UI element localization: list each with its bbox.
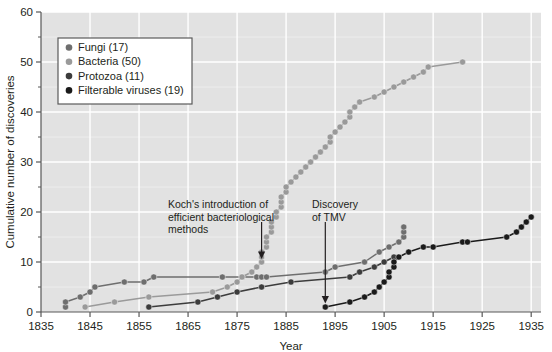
- series-point: [62, 299, 68, 305]
- series-point: [401, 224, 407, 230]
- series-point: [464, 239, 470, 245]
- series-point: [239, 274, 245, 280]
- legend: Fungi (17)Bacteria (50)Protozoa (11)Filt…: [58, 38, 192, 104]
- series-point: [322, 144, 328, 150]
- series-point: [381, 89, 387, 95]
- series-point: [332, 264, 338, 270]
- series-point: [219, 274, 225, 280]
- series-point: [283, 184, 289, 190]
- series-point: [430, 244, 436, 250]
- series-point: [146, 294, 152, 300]
- series-point: [396, 254, 402, 260]
- series-point: [278, 194, 284, 200]
- y-axis-title: Cumulative number of discoveries: [4, 75, 16, 248]
- legend-label: Protozoa (11): [78, 70, 144, 82]
- series-point: [518, 224, 524, 230]
- series-point: [322, 304, 328, 310]
- series-point: [82, 304, 88, 310]
- legend-marker-icon: [66, 44, 73, 51]
- legend-label: Filterable viruses (19): [78, 84, 184, 96]
- y-tick-label: 30: [20, 156, 33, 168]
- series-point: [347, 274, 353, 280]
- series-point: [209, 289, 215, 295]
- series-point: [386, 244, 392, 250]
- series-point: [391, 259, 397, 265]
- annotation-text-line: of TMV: [312, 211, 346, 223]
- series-point: [258, 284, 264, 290]
- legend-marker-icon: [66, 59, 73, 66]
- x-tick-label: 1835: [28, 320, 54, 332]
- series-point: [406, 249, 412, 255]
- series-point: [352, 104, 358, 110]
- legend-marker-icon: [66, 87, 73, 94]
- series-point: [263, 274, 269, 280]
- series-point: [288, 179, 294, 185]
- series-point: [77, 294, 83, 300]
- legend-item[interactable]: Filterable viruses (19): [66, 84, 184, 96]
- series-point: [410, 74, 416, 80]
- x-tick-label: 1895: [322, 320, 348, 332]
- series-point: [146, 304, 152, 310]
- series-point: [337, 124, 343, 130]
- series-point: [151, 274, 157, 280]
- series-point: [347, 109, 353, 115]
- series-point: [92, 284, 98, 290]
- series-point: [263, 234, 269, 240]
- series-point: [391, 84, 397, 90]
- series-point: [273, 209, 279, 215]
- series-point: [308, 159, 314, 165]
- x-tick-label: 1855: [126, 320, 152, 332]
- series-point: [327, 134, 333, 140]
- x-tick-label: 1905: [371, 320, 397, 332]
- series-point: [214, 294, 220, 300]
- legend-label: Bacteria (50): [78, 55, 141, 67]
- series-point: [87, 289, 93, 295]
- series-point: [332, 129, 338, 135]
- series-point: [459, 59, 465, 65]
- annotation-text-line: methods: [168, 223, 208, 235]
- series-point: [234, 279, 240, 285]
- series-point: [420, 244, 426, 250]
- discoveries-line-chart: 1835184518551865187518851895190519151925…: [0, 0, 552, 352]
- series-point: [254, 264, 260, 270]
- series-point: [513, 229, 519, 235]
- series-point: [298, 169, 304, 175]
- series-point: [121, 279, 127, 285]
- y-tick-label: 50: [20, 56, 33, 68]
- series-point: [234, 289, 240, 295]
- y-tick-label: 60: [20, 6, 33, 18]
- series-point: [357, 99, 363, 105]
- legend-item[interactable]: Protozoa (11): [66, 70, 144, 82]
- series-point: [361, 259, 367, 265]
- annotation-text-line: efficient bacteriological: [168, 211, 274, 223]
- series-point: [420, 69, 426, 75]
- chart-container: 1835184518551865187518851895190519151925…: [0, 0, 552, 352]
- series-point: [425, 64, 431, 70]
- series-point: [371, 94, 377, 100]
- x-tick-label: 1935: [518, 320, 544, 332]
- series-point: [317, 149, 323, 155]
- series-point: [224, 284, 230, 290]
- series-point: [141, 279, 147, 285]
- series-point: [381, 279, 387, 285]
- legend-label: Fungi (17): [78, 41, 128, 53]
- x-axis-title: Year: [279, 340, 302, 352]
- series-point: [357, 269, 363, 275]
- series-point: [371, 264, 377, 270]
- series-point: [361, 294, 367, 300]
- x-tick-label: 1865: [175, 320, 201, 332]
- annotation-text-line: Koch's introduction of: [168, 198, 268, 210]
- series-point: [303, 164, 309, 170]
- series-point: [396, 239, 402, 245]
- series-point: [371, 289, 377, 295]
- series-point: [347, 299, 353, 305]
- series-point: [249, 269, 255, 275]
- series-point: [195, 299, 201, 305]
- series-point: [504, 234, 510, 240]
- series-point: [523, 219, 529, 225]
- annotation-text-line: Discovery: [312, 198, 359, 210]
- x-tick-label: 1885: [273, 320, 299, 332]
- x-tick-label: 1845: [77, 320, 103, 332]
- series-point: [386, 269, 392, 275]
- series-point: [401, 79, 407, 85]
